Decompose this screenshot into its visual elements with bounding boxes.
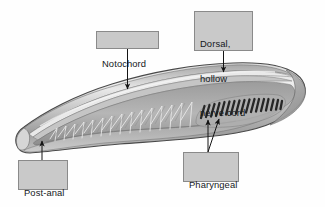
callout-pharyngeal-line-1: Pharyngeal [189, 179, 233, 190]
callout-dorsal-line-2: hollow [200, 73, 247, 84]
callout-notochord[interactable]: Notochord [96, 31, 159, 49]
figure-canvas: Notochord Dorsal, hollow nerve cord Post… [0, 0, 325, 207]
lancelet-body [16, 63, 306, 153]
callout-pharyngeal-slits[interactable]: Pharyngeal slits [183, 152, 239, 182]
callout-dorsal-line-3: nerve cord [200, 107, 247, 118]
callout-post-anal-tail[interactable]: Post-anal tail [18, 160, 68, 190]
callout-notochord-line-1: Notochord [102, 58, 153, 69]
callout-dorsal-line-1: Dorsal, [200, 38, 247, 49]
callout-dorsal-nerve-cord[interactable]: Dorsal, hollow nerve cord [194, 11, 253, 51]
callout-postanal-line-1: Post-anal [24, 187, 62, 198]
